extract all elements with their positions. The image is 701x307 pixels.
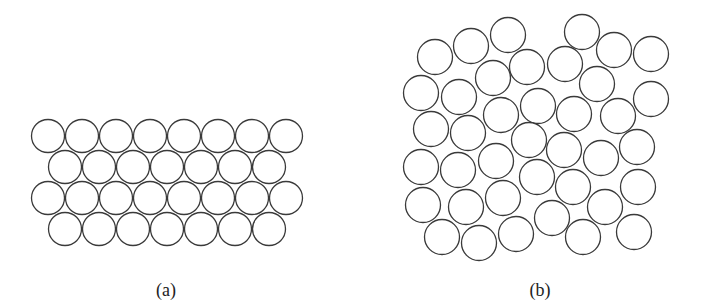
circle-particle [100, 120, 133, 153]
circle-particle [270, 120, 303, 153]
circle-particle [597, 33, 632, 68]
circle-particle [617, 215, 652, 250]
circle-particle [406, 188, 441, 223]
circle-particle [486, 181, 521, 216]
circle-particle [451, 116, 486, 151]
circle-particle [512, 123, 547, 158]
circle-particle [49, 213, 82, 246]
circle-particle [601, 99, 636, 134]
circle-particle [510, 50, 545, 85]
circle-particle [634, 82, 669, 117]
circle-particle [83, 213, 116, 246]
circle-particle [32, 120, 65, 153]
circle-particle [270, 182, 303, 215]
circle-particle [621, 170, 656, 205]
circle-particle [557, 97, 592, 132]
circle-particle [219, 213, 252, 246]
circle-particle [134, 120, 167, 153]
circle-particle [547, 133, 582, 168]
circle-particle [134, 182, 167, 215]
circle-particle [202, 120, 235, 153]
circle-particle [236, 120, 269, 153]
circle-particle [219, 151, 252, 184]
packing-diagram [0, 0, 701, 307]
circle-particle [253, 151, 286, 184]
panel-a-ordered-packing [32, 120, 303, 246]
circle-particle [620, 130, 655, 165]
circle-particle [584, 141, 619, 176]
circle-particle [168, 120, 201, 153]
circle-particle [168, 182, 201, 215]
circle-particle [484, 98, 519, 133]
circle-particle [425, 220, 460, 255]
circle-particle [117, 213, 150, 246]
panel-a-label: (a) [156, 281, 176, 299]
circle-particle [151, 213, 184, 246]
circle-particle [479, 144, 514, 179]
circle-particle [83, 151, 116, 184]
circle-particle [253, 213, 286, 246]
circle-particle [66, 120, 99, 153]
circle-particle [566, 220, 601, 255]
circle-particle [236, 182, 269, 215]
circle-particle [418, 40, 453, 75]
circle-particle [588, 190, 623, 225]
circle-particle [476, 61, 511, 96]
circle-particle [185, 151, 218, 184]
circle-particle [520, 160, 555, 195]
circle-particle [404, 150, 439, 185]
circle-particle [117, 151, 150, 184]
panel-b-random-packing [404, 15, 669, 261]
circle-particle [414, 112, 449, 147]
circle-particle [556, 170, 591, 205]
circle-particle [100, 182, 133, 215]
circle-particle [634, 37, 669, 72]
circle-particle [202, 182, 235, 215]
circle-particle [491, 18, 526, 53]
circle-particle [66, 182, 99, 215]
panel-b-label: (b) [530, 281, 551, 299]
circle-particle [462, 226, 497, 261]
circle-particle [521, 89, 556, 124]
circle-particle [49, 151, 82, 184]
circle-particle [442, 80, 477, 115]
circle-particle [499, 217, 534, 252]
circle-particle [454, 29, 489, 64]
circle-particle [535, 201, 570, 236]
circle-particle [404, 76, 439, 111]
circle-particle [449, 190, 484, 225]
circle-particle [185, 213, 218, 246]
circle-particle [441, 153, 476, 188]
circle-particle [565, 15, 600, 50]
circle-particle [151, 151, 184, 184]
circle-particle [32, 182, 65, 215]
circle-particle [580, 67, 615, 102]
circle-particle [548, 47, 583, 82]
